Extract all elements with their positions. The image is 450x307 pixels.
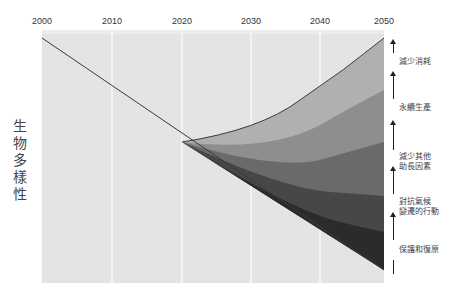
x-tick-2010: 2010 xyxy=(102,16,122,26)
x-tick-2050: 2050 xyxy=(374,16,394,26)
y-label-char: 樣 xyxy=(10,169,30,186)
arrow-up-icon xyxy=(393,75,394,99)
legend-reduce-other-drivers: 減少其他 助長因素 xyxy=(399,152,431,172)
arrow-up-icon xyxy=(393,170,394,194)
arrow-up-icon xyxy=(393,124,394,150)
legend-sustainable-production: 永續生產 xyxy=(399,103,431,113)
x-tick-2030: 2030 xyxy=(241,16,261,26)
x-tick-2040: 2040 xyxy=(310,16,330,26)
legend-reduce-consumption: 減少消耗 xyxy=(399,57,431,67)
arrow-up-icon xyxy=(393,43,394,53)
y-label-char: 物 xyxy=(10,135,30,152)
y-label-char: 性 xyxy=(10,186,30,203)
legend-protect-restore: 保護和復原 xyxy=(399,245,439,255)
chart-plot xyxy=(0,0,450,307)
y-label-char: 多 xyxy=(10,152,30,169)
biodiversity-chart: 2000 2010 2020 2030 2040 2050 生 物 多 樣 性 … xyxy=(0,0,450,307)
y-axis-label: 生 物 多 樣 性 xyxy=(10,118,30,203)
plot-top-band xyxy=(42,30,384,34)
x-tick-2000: 2000 xyxy=(32,16,52,26)
x-tick-2020: 2020 xyxy=(172,16,192,26)
arrow-up-icon xyxy=(393,216,394,240)
legend-climate-action: 對抗氣候 變遷的行動 xyxy=(399,197,439,217)
arrow-tail-icon xyxy=(393,260,394,274)
y-label-char: 生 xyxy=(10,118,30,135)
